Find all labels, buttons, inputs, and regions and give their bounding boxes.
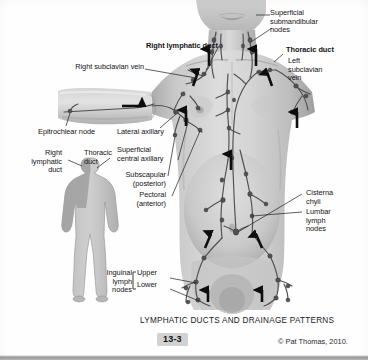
- label-epitrochlear-node: Epitrochlear node: [38, 128, 95, 137]
- label-inguinal-upper: Upper: [137, 269, 157, 278]
- figure-caption: LYMPHATIC DUCTS AND DRAINAGE PATTERNS: [140, 316, 334, 325]
- copyright-notice: © Pat Thomas, 2010.: [278, 337, 348, 346]
- label-lateral-axillary: Lateral axillary: [117, 128, 164, 137]
- label-lumbar-lymph-nodes: Lumbar lymph nodes: [306, 208, 331, 234]
- label-pectoral-anterior: Pectoral (anterior): [96, 191, 166, 208]
- page-bottom-rule: [0, 355, 368, 360]
- label-inguinal-lower: Lower: [137, 281, 157, 290]
- label-cisterna-chyli: Cisterna chyli: [306, 189, 333, 206]
- label-thoracic-duct: Thoracic duct: [286, 46, 334, 55]
- label-superficial-central-axillary: Superficial central axillary: [117, 146, 163, 163]
- label-subscapular-posterior: Subscapular (posterior): [96, 171, 166, 188]
- label-left-subclavian-vein: Left subclavian vein: [288, 57, 322, 83]
- label-superficial-submandibular-nodes: Superficial submandibular nodes: [270, 9, 318, 35]
- label-inset-thoracic-duct: Thoracic duct: [84, 149, 112, 166]
- label-inguinal-lymph-nodes: Inguinal lymph nodes: [88, 269, 132, 295]
- figure-number-badge: 13-3: [157, 333, 188, 346]
- label-inset-right-lymphatic-duct: Right lymphatic duct: [16, 149, 62, 175]
- lymphatic-figure: Superficial submandibular nodes Right ly…: [0, 0, 368, 360]
- label-right-lymphatic-duct: Right lymphatic duct: [66, 42, 218, 51]
- label-right-subclavian-vein: Right subclavian vein: [50, 63, 144, 72]
